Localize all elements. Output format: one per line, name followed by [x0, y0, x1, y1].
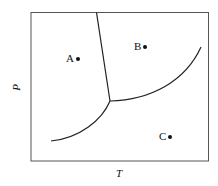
plot-frame [31, 13, 209, 162]
liquid-gas-boundary [110, 47, 201, 101]
solid-gas-boundary [51, 101, 110, 141]
phase-diagram [0, 0, 218, 186]
point-b-marker [143, 45, 147, 49]
point-b-label: B [134, 40, 141, 52]
point-a-marker [76, 57, 80, 61]
x-axis-label: T [116, 168, 122, 179]
point-a-label: A [66, 52, 74, 64]
point-b: B [134, 41, 147, 52]
y-axis-label: P [11, 84, 22, 91]
point-a: A [66, 53, 80, 64]
point-c: C [159, 131, 172, 142]
point-c-label: C [159, 130, 166, 142]
solid-liquid-boundary [97, 13, 111, 102]
point-c-marker [168, 135, 172, 139]
